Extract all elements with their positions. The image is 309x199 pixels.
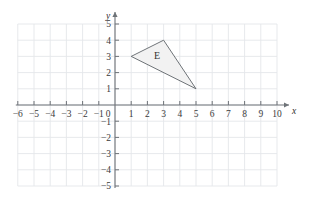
x-axis-tick-label: 9 bbox=[258, 109, 263, 119]
y-axis-arrow-icon bbox=[112, 12, 117, 17]
x-axis-tick-label: 7 bbox=[226, 109, 231, 119]
x-axis-ticks: −6−5−4−3−2−1012345678910 bbox=[13, 101, 282, 119]
y-axis-name: y bbox=[105, 11, 111, 21]
y-axis-tick-label: 2 bbox=[106, 68, 111, 78]
x-axis-tick-label: −5 bbox=[29, 109, 39, 119]
x-axis-tick-label: −4 bbox=[45, 109, 55, 119]
y-axis-tick-label: 4 bbox=[106, 36, 111, 46]
axes-layer bbox=[16, 12, 289, 188]
x-axis-tick-label: 1 bbox=[129, 109, 134, 119]
x-axis-tick-label: −2 bbox=[78, 109, 88, 119]
y-axis-tick-label: −1 bbox=[101, 117, 111, 127]
y-axis-tick-label: −5 bbox=[101, 181, 111, 191]
x-axis-tick-label: 10 bbox=[272, 109, 282, 119]
y-axis-tick-label: 1 bbox=[106, 84, 111, 94]
x-axis-tick-label: −6 bbox=[13, 109, 23, 119]
y-axis-tick-label: −2 bbox=[101, 133, 111, 143]
y-axis-tick-label: −3 bbox=[101, 149, 111, 159]
x-axis-tick-label: 8 bbox=[242, 109, 247, 119]
x-axis-tick-label: 2 bbox=[145, 109, 150, 119]
shape-label-e: E bbox=[154, 50, 160, 61]
coordinate-plane-svg: −6−5−4−3−2−1012345678910−5−4−3−2−112345x… bbox=[0, 0, 309, 199]
x-axis-tick-label: 6 bbox=[210, 109, 215, 119]
y-axis-tick-label: −4 bbox=[101, 165, 111, 175]
x-axis-tick-label: −3 bbox=[61, 109, 71, 119]
x-axis-arrow-icon bbox=[284, 102, 289, 107]
y-axis-tick-label: 3 bbox=[106, 52, 111, 62]
x-axis-tick-label: 4 bbox=[177, 109, 182, 119]
x-axis-tick-label: 5 bbox=[194, 109, 199, 119]
x-axis-name: x bbox=[291, 106, 297, 116]
x-axis-tick-label: 3 bbox=[161, 109, 166, 119]
coordinate-plane-figure: −6−5−4−3−2−1012345678910−5−4−3−2−112345x… bbox=[0, 0, 309, 199]
